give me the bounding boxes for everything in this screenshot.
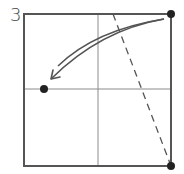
fold-diagram bbox=[0, 0, 184, 174]
bottom-right-corner-dot bbox=[167, 162, 175, 170]
top-right-corner-dot bbox=[167, 10, 175, 18]
target-dot bbox=[40, 85, 48, 93]
fold-arrow bbox=[51, 19, 164, 79]
fold-line bbox=[113, 14, 171, 166]
